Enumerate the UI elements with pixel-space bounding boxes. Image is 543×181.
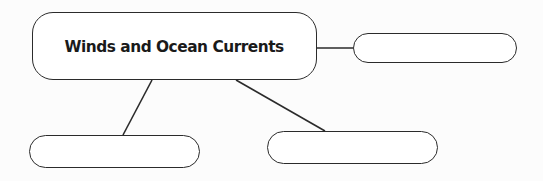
connector-main-to-bottom-right <box>236 80 325 131</box>
empty-node-bottom-right <box>267 131 438 164</box>
empty-node-bottom-left <box>29 135 200 168</box>
main-topic-label: Winds and Ocean Currents <box>65 37 284 56</box>
main-topic-node: Winds and Ocean Currents <box>32 12 317 80</box>
connector-main-to-bottom-left <box>123 80 152 135</box>
empty-node-right <box>353 33 517 63</box>
concept-map: Winds and Ocean Currents <box>0 0 543 181</box>
